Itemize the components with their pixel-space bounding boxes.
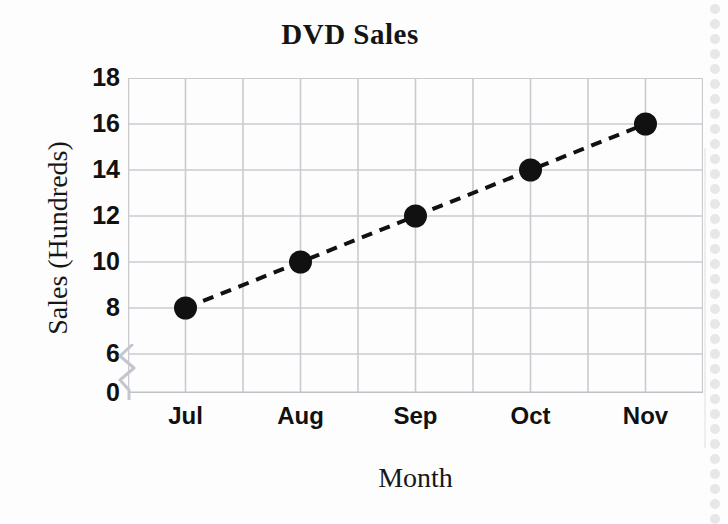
scan-artifact-dot [710, 274, 720, 284]
scan-artifact-dot [710, 139, 720, 149]
y-axis-break-icon [112, 344, 146, 400]
x-axis-tick-labels: JulAugSepOctNov [128, 404, 703, 438]
scan-artifact-dot [710, 184, 720, 194]
scan-artifact-dot [710, 349, 720, 359]
y-tick-label-18: 18 [74, 65, 120, 90]
scan-artifact-dot [710, 34, 720, 44]
y-axis-title: Sales (Hundreds) [42, 88, 74, 388]
scan-artifact-dot [710, 79, 720, 89]
scan-artifact-dot [710, 319, 720, 329]
x-tick-label-jul: Jul [136, 404, 236, 428]
y-tick-label-16: 16 [74, 111, 120, 136]
scan-artifact-dot [710, 304, 720, 314]
scan-artifact-dot [710, 199, 720, 209]
y-tick-label-8: 8 [74, 295, 120, 320]
plot-svg [128, 78, 703, 393]
scan-artifact-dot [710, 334, 720, 344]
x-tick-label-sep: Sep [366, 404, 466, 428]
scan-artifact-dot [710, 109, 720, 119]
scan-artifact-dot [710, 64, 720, 74]
scan-artifact-dot [710, 364, 720, 374]
data-point-sep [404, 205, 427, 228]
scan-artifact-dot [710, 514, 720, 524]
x-tick-label-oct: Oct [481, 404, 581, 428]
y-tick-label-14: 14 [74, 157, 120, 182]
data-point-jul [174, 297, 197, 320]
data-point-aug [289, 251, 312, 274]
scan-artifact-dot [710, 124, 720, 134]
vertical-gridlines [128, 78, 703, 393]
x-axis-title: Month [128, 462, 703, 494]
scan-artifact-dot [710, 439, 720, 449]
data-point-oct [519, 159, 542, 182]
x-tick-label-aug: Aug [251, 404, 351, 428]
y-tick-label-12: 12 [74, 203, 120, 228]
scan-artifact-dot [710, 379, 720, 389]
scan-binding-holes [708, 0, 724, 523]
scan-artifact-dot [710, 289, 720, 299]
scan-page-edge [704, 148, 706, 448]
scan-artifact-dot [710, 169, 720, 179]
scan-artifact-dot [710, 19, 720, 29]
scan-artifact-dot [710, 469, 720, 479]
scan-artifact-dot [710, 394, 720, 404]
y-axis-tick-labels: 0681012141618 [72, 0, 120, 523]
scan-artifact-dot [710, 244, 720, 254]
scan-artifact-dot [710, 259, 720, 269]
scan-artifact-dot [710, 4, 720, 14]
scan-artifact-dot [710, 454, 720, 464]
scan-artifact-dot [710, 49, 720, 59]
scan-artifact-dot [710, 409, 720, 419]
data-point-nov [634, 113, 657, 136]
scan-artifact-dot [710, 214, 720, 224]
scan-artifact-dot [710, 499, 720, 509]
scan-artifact-dot [710, 154, 720, 164]
scan-artifact-dot [710, 424, 720, 434]
plot-area [128, 78, 703, 393]
scan-artifact-dot [710, 94, 720, 104]
scan-artifact-dot [710, 484, 720, 494]
y-tick-label-10: 10 [74, 249, 120, 274]
x-tick-label-nov: Nov [596, 404, 696, 428]
scan-artifact-dot [710, 229, 720, 239]
